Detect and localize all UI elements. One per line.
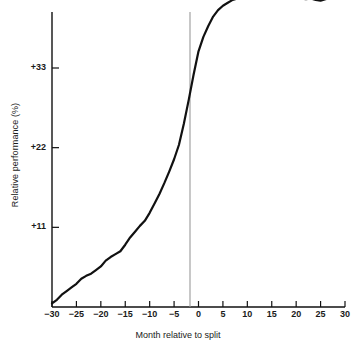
y-tick-marks — [52, 68, 59, 227]
x-tick-label: 15 — [259, 309, 285, 319]
chart-plot-area — [0, 0, 356, 349]
x-tick-label: 20 — [283, 309, 309, 319]
x-tick-label: −15 — [112, 309, 138, 319]
x-tick-label: −20 — [88, 309, 114, 319]
x-tick-label: −10 — [137, 309, 163, 319]
x-tick-label: 0 — [186, 309, 212, 319]
series-group — [52, 0, 345, 303]
y-tick-label: +11 — [16, 221, 46, 231]
y-axis-title: Relative performance (%) — [4, 0, 26, 310]
x-tick-label: 25 — [308, 309, 334, 319]
x-tick-label: −5 — [161, 309, 187, 319]
x-tick-label: 10 — [234, 309, 260, 319]
x-tick-label: 30 — [332, 309, 356, 319]
chart-figure: Relative performance (%) Month relative … — [0, 0, 356, 349]
x-tick-marks — [52, 301, 345, 307]
x-tick-label: −25 — [63, 309, 89, 319]
x-tick-label: −30 — [39, 309, 65, 319]
x-axis-title-text: Month relative to split — [0, 330, 356, 340]
series-line — [52, 0, 345, 303]
y-tick-label: +33 — [16, 62, 46, 72]
y-axis-title-text: Relative performance (%) — [10, 103, 20, 207]
x-tick-label: 5 — [210, 309, 236, 319]
y-tick-label: +22 — [16, 142, 46, 152]
